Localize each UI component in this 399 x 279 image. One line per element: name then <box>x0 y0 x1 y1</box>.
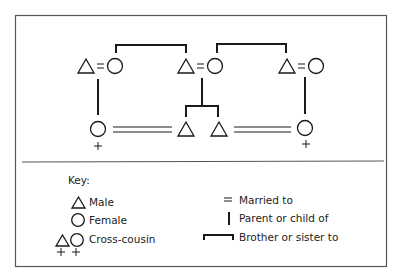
male-icon <box>211 122 227 136</box>
key-heading: Key: <box>68 174 90 186</box>
key-label-cross-cousin: Cross-cousin <box>89 233 155 245</box>
couple-1 <box>78 59 123 74</box>
sibling-bracket-icon <box>116 45 186 53</box>
kinship-diagram <box>0 0 399 279</box>
male-icon <box>178 122 194 136</box>
male-icon <box>279 59 295 73</box>
female-icon <box>108 59 123 74</box>
key-equals-icon <box>224 198 232 201</box>
key-divider <box>22 161 384 162</box>
key-cross-cousin-female-icon <box>71 234 84 247</box>
female-icon <box>309 59 324 74</box>
key-sibling-bracket-icon <box>204 235 233 240</box>
key-cross-cousin-male-icon <box>56 235 69 246</box>
female-icon <box>298 121 313 136</box>
key-label-sibling: Brother or sister to <box>239 231 338 243</box>
key-male-icon <box>72 197 85 208</box>
key-label-parent-child: Parent or child of <box>239 212 328 224</box>
couple-3 <box>279 59 324 74</box>
key-label-married: Married to <box>239 194 293 206</box>
couple-2 <box>178 59 223 74</box>
key-plus-icon <box>57 248 80 256</box>
key-label-male: Male <box>89 196 114 208</box>
cross-cousin-marker-icon <box>94 142 102 150</box>
male-icon <box>78 59 94 73</box>
key-female-icon <box>72 214 85 227</box>
key-label-female: Female <box>89 214 127 226</box>
sibling-bracket-icon <box>217 44 286 53</box>
male-icon <box>178 59 194 73</box>
outer-frame <box>16 16 387 267</box>
cross-cousin-marker-icon <box>302 140 310 148</box>
sibling-bracket-icon <box>186 106 218 117</box>
female-icon <box>91 122 106 137</box>
female-icon <box>208 59 223 74</box>
